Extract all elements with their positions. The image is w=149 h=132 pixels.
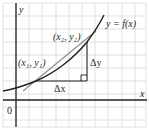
diagram-canvas: y x 0 y = f(x) (x₁, y₁) (x₂, y₂) Δy Δx [0,0,149,132]
secant-diagram: y x 0 y = f(x) (x₁, y₁) (x₂, y₂) Δy Δx [0,0,149,132]
y-axis-label: y [18,4,24,15]
curve-label: y = f(x) [105,18,137,30]
function-curve [3,15,104,91]
delta-x-label: Δx [54,83,65,94]
x-axis-label: x [139,88,145,99]
point-2-label: (x₂, y₂) [53,31,81,43]
delta-y-label: Δy [90,57,101,68]
point-1-label: (x₁, y₁) [18,57,46,69]
origin-label: 0 [7,105,12,116]
